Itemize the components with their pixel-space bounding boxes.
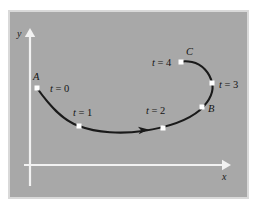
- x-axis-label: x: [221, 171, 227, 182]
- label-t0-t: t = 0: [50, 83, 69, 94]
- parametric-curve-figure: x y t = 0At = 1t = 2t = 3Bt = 4C: [0, 0, 257, 207]
- label-t4-t: t = 4: [152, 57, 172, 68]
- marker-t0: [35, 86, 40, 91]
- label-point-C: C: [186, 46, 194, 57]
- marker-t1: [77, 124, 82, 129]
- label-point-A: A: [32, 71, 40, 82]
- y-axis-label: y: [16, 28, 22, 39]
- marker-t4: [179, 60, 184, 65]
- label-point-B: B: [208, 103, 215, 114]
- label-t1-t: t = 1: [73, 107, 92, 118]
- label-t3-t: t = 3: [219, 79, 238, 90]
- figure-container: x y t = 0At = 1t = 2t = 3Bt = 4C Paramet…: [0, 0, 257, 207]
- marker-point-B: [200, 105, 205, 110]
- marker-t2: [161, 126, 166, 131]
- label-t2-t: t = 2: [146, 105, 165, 116]
- marker-t3: [210, 81, 215, 86]
